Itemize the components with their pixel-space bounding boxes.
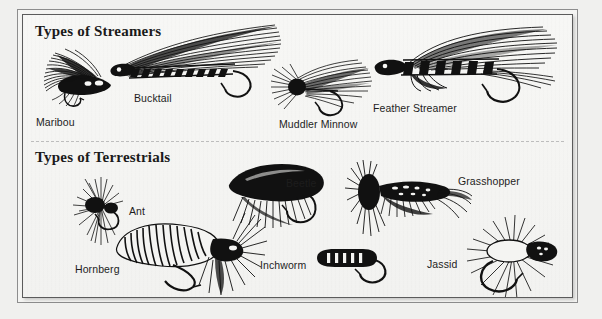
diagram-canvas: Types of Streamers <box>23 15 572 297</box>
fly-illustration-inchworm <box>313 244 399 290</box>
label-jassid: Jassid <box>427 258 457 270</box>
fly-illustration-jassid <box>459 215 569 297</box>
section-divider <box>31 141 564 142</box>
fly-illustration-hornberg <box>109 211 269 297</box>
fly-illustration-feather-streamer <box>371 25 567 111</box>
fly-illustration-grasshopper <box>343 160 473 238</box>
label-muddler-minnow: Muddler Minnow <box>279 118 357 130</box>
label-feather-streamer: Feather Streamer <box>373 102 457 114</box>
section-title-terrestrials: Types of Terrestrials <box>35 149 170 166</box>
label-bucktail: Bucktail <box>134 92 172 104</box>
illustration-page: Types of Streamers <box>0 0 602 319</box>
label-inchworm: Inchworm <box>260 259 306 271</box>
label-maribou: Maribou <box>36 116 75 128</box>
label-beetle: Beetle <box>286 177 316 189</box>
fly-illustration-bucktail <box>103 23 283 105</box>
fly-illustration-muddler-minnow <box>270 59 375 127</box>
label-grasshopper: Grasshopper <box>458 175 520 187</box>
label-hornberg: Hornberg <box>75 263 120 275</box>
